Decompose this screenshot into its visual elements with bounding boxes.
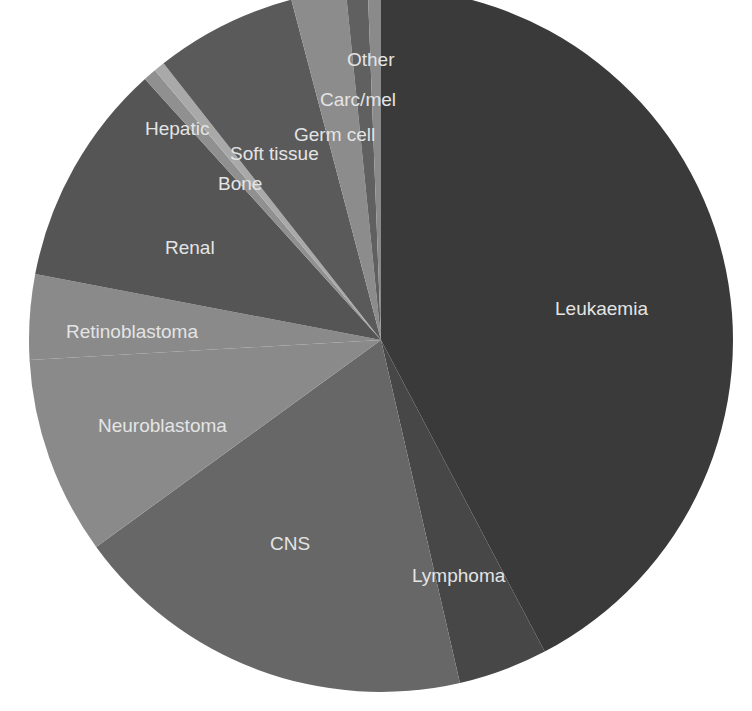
slice-label-neuroblastoma: Neuroblastoma	[98, 415, 227, 436]
slice-label-other: Other	[347, 49, 395, 70]
slice-label-germ-cell: Germ cell	[294, 124, 375, 145]
slice-label-leukaemia: Leukaemia	[555, 298, 648, 319]
slice-label-cns: CNS	[270, 533, 310, 554]
slice-label-retinoblastoma: Retinoblastoma	[66, 321, 198, 342]
slice-label-carc-mel: Carc/mel	[320, 89, 396, 110]
slice-label-renal: Renal	[165, 237, 215, 258]
pie-chart: LeukaemiaLymphomaCNSNeuroblastomaRetinob…	[0, 0, 752, 711]
slice-label-hepatic: Hepatic	[145, 118, 209, 139]
slice-label-lymphoma: Lymphoma	[412, 565, 506, 586]
slice-label-bone: Bone	[218, 173, 262, 194]
slice-label-soft-tissue: Soft tissue	[230, 143, 319, 164]
